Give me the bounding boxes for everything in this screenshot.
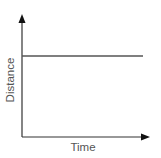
- x-axis-arrow-icon: [141, 134, 150, 141]
- y-axis-arrow-icon: [19, 14, 26, 23]
- distance-time-chart: Time Distance: [0, 0, 161, 158]
- x-axis-label: Time: [70, 141, 95, 153]
- y-axis-label: Distance: [4, 58, 16, 103]
